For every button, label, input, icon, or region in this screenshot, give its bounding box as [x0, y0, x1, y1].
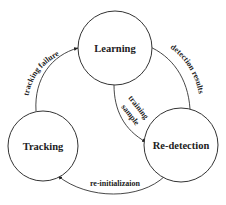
node-learning-label: Learning [94, 43, 136, 54]
edge-redetection-to-learning: detection results [148, 42, 206, 109]
node-redetection: Re-detection [144, 108, 218, 182]
edge-label-tracking-failure: tracking failure [22, 49, 61, 97]
edge-learning-to-redetection: training sample [114, 85, 150, 142]
edge-tracking-to-learning: tracking failure [22, 48, 78, 111]
node-learning: Learning [78, 11, 152, 85]
node-tracking-label: Tracking [23, 141, 64, 152]
edge-label-re-initialization: re-initializaion [90, 179, 141, 188]
node-redetection-label: Re-detection [153, 140, 210, 151]
tld-cycle-diagram: tracking failure training sample detecti… [0, 0, 226, 205]
edge-label-detection-results: detection results [169, 42, 206, 94]
node-tracking: Tracking [8, 111, 78, 181]
edge-redetection-to-tracking: re-initializaion [58, 176, 165, 194]
